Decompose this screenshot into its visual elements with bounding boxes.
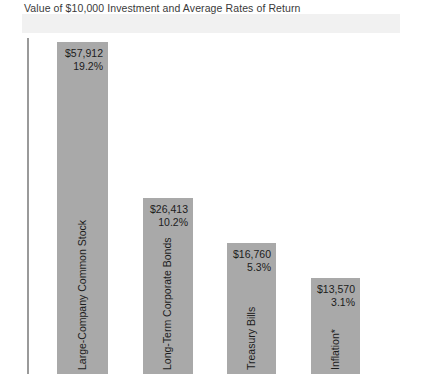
- bar-value-group: $13,570 3.1%: [311, 283, 360, 309]
- bar-rate-label: 5.3%: [227, 261, 271, 274]
- bar-rate-label: 19.2%: [57, 60, 103, 73]
- bar-value-group: $26,413 10.2%: [143, 203, 193, 229]
- bar-category-label: Inflation*: [329, 329, 341, 370]
- bar-amount-label: $16,760: [227, 248, 271, 261]
- bar-large-company-common-stock: $57,912 19.2% Large-Company Common Stock: [57, 42, 108, 374]
- bar-rate-label: 3.1%: [311, 296, 355, 309]
- bar-amount-label: $26,413: [143, 203, 188, 216]
- bar-value-group: $16,760 5.3%: [227, 248, 276, 274]
- bar-amount-label: $13,570: [311, 283, 355, 296]
- bar-amount-label: $57,912: [57, 47, 103, 60]
- bar-long-term-corporate-bonds: $26,413 10.2% Long-Term Corporate Bonds: [143, 198, 193, 374]
- bar-inflation: $13,570 3.1% Inflation*: [311, 278, 360, 374]
- bar-category-label-wrap: Large-Company Common Stock: [57, 42, 108, 374]
- bar-rate-label: 10.2%: [143, 216, 188, 229]
- bar-value-group: $57,912 19.2%: [57, 47, 108, 73]
- bar-category-label: Long-Term Corporate Bonds: [161, 238, 173, 371]
- bar-category-label: Large-Company Common Stock: [76, 220, 88, 370]
- bar-category-label: Treasury Bills: [245, 307, 257, 370]
- bar-treasury-bills: $16,760 5.3% Treasury Bills: [227, 243, 276, 374]
- plot-area: $57,912 19.2% Large-Company Common Stock…: [0, 0, 424, 374]
- bar-chart-figure: Value of $10,000 Investment and Average …: [0, 0, 424, 374]
